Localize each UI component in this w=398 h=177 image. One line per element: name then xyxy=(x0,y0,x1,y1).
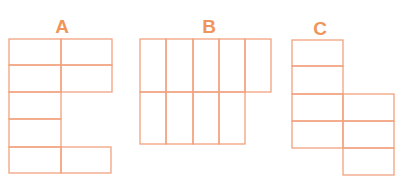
net-diagrams xyxy=(0,0,398,177)
figure-a-net xyxy=(9,39,112,173)
figure-c-net xyxy=(292,40,394,175)
figure-b-net xyxy=(140,39,271,144)
